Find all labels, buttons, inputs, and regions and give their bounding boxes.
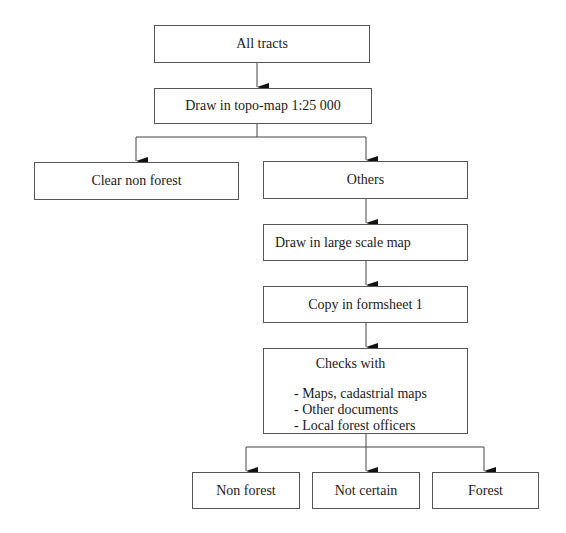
node-label: Forest: [468, 483, 503, 499]
node-not-certain: Not certain: [312, 472, 420, 509]
node-label: Non forest: [216, 483, 276, 499]
node-forest: Forest: [432, 472, 539, 509]
node-large-scale-map: Draw in large scale map: [263, 224, 468, 261]
checks-item: - Local forest officers: [294, 418, 467, 434]
node-topo-map: Draw in topo-map 1:25 000: [154, 88, 372, 124]
node-clear-non-forest: Clear non forest: [34, 162, 239, 200]
connector-lines: [0, 0, 566, 533]
node-formsheet: Copy in formsheet 1: [263, 286, 468, 323]
node-others: Others: [263, 161, 468, 199]
node-label: Copy in formsheet 1: [308, 297, 423, 313]
node-checks: Checks with - Maps, cadastrial maps - Ot…: [263, 348, 468, 434]
node-label: Not certain: [335, 483, 398, 499]
node-label: Draw in large scale map: [275, 235, 411, 251]
flowchart-canvas: All tracts Draw in topo-map 1:25 000 Cle…: [0, 0, 566, 533]
checks-item: - Maps, cadastrial maps: [294, 386, 467, 402]
node-label: Others: [347, 172, 384, 188]
checks-item: - Other documents: [294, 402, 467, 418]
node-label: Checks with: [234, 355, 467, 372]
node-label: Draw in topo-map 1:25 000: [185, 98, 341, 114]
node-non-forest: Non forest: [192, 472, 300, 509]
node-all-tracts: All tracts: [154, 25, 370, 63]
node-label: All tracts: [236, 36, 288, 52]
node-label: Clear non forest: [91, 173, 181, 189]
checks-list: - Maps, cadastrial maps - Other document…: [264, 386, 467, 434]
